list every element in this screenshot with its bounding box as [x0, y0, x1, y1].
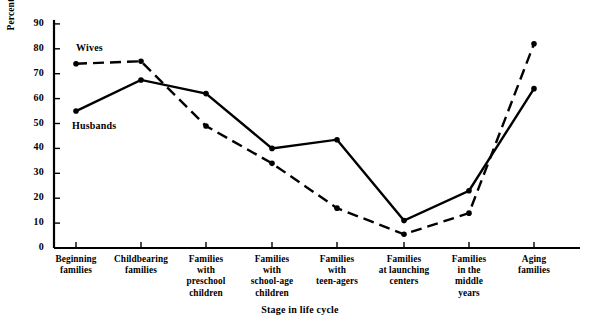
data-point-husbands	[466, 188, 472, 194]
data-point-wives	[203, 123, 209, 129]
data-point-husbands	[269, 146, 275, 152]
data-point-wives	[531, 41, 537, 47]
data-point-husbands	[73, 108, 79, 114]
data-point-wives	[466, 210, 472, 216]
series-line-husbands	[76, 80, 534, 221]
data-point-wives	[73, 61, 79, 67]
data-series	[73, 41, 537, 237]
data-point-wives	[334, 205, 340, 211]
data-point-wives	[138, 58, 144, 64]
axes	[54, 20, 580, 248]
data-point-husbands	[531, 86, 537, 92]
chart-container: Percent reporting satisfaction Stage in …	[0, 0, 600, 328]
data-point-husbands	[138, 77, 144, 83]
series-line-wives	[76, 44, 534, 234]
plot-area	[0, 0, 600, 328]
data-point-husbands	[334, 137, 340, 143]
data-point-wives	[401, 232, 407, 238]
data-point-husbands	[203, 91, 209, 97]
data-point-husbands	[401, 218, 407, 224]
data-point-wives	[269, 161, 275, 167]
